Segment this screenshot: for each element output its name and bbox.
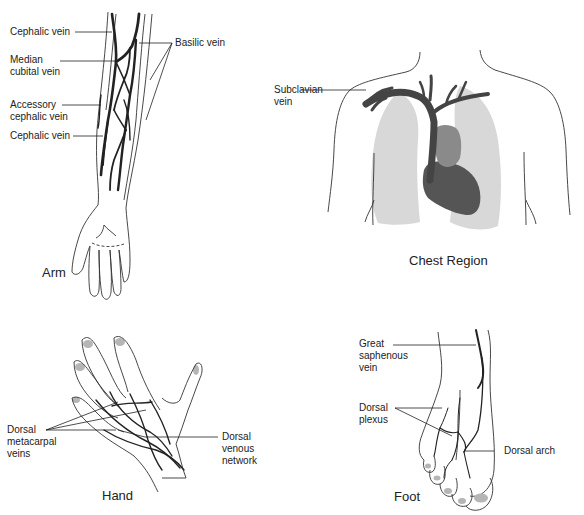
label-median-cubital-vein: Median cubital vein [10, 54, 60, 78]
label-dorsal-arch: Dorsal arch [504, 445, 555, 457]
arm-illustration [60, 12, 172, 299]
hand-illustration [46, 337, 218, 492]
label-basilic-vein: Basilic vein [175, 37, 225, 49]
foot-illustration [393, 330, 494, 510]
label-dorsal-metacarpal-veins: Dorsal metacarpal veins [7, 424, 56, 460]
label-dorsal-plexus: Dorsal plexus [359, 402, 388, 426]
label-accessory-cephalic-vein: Accessory cephalic vein [10, 99, 68, 123]
caption-foot: Foot [394, 489, 420, 504]
illustration-canvas [0, 0, 584, 515]
chest-illustration [301, 50, 570, 229]
veins-diagram: Cephalic vein Median cubital vein Access… [0, 0, 584, 515]
caption-hand: Hand [102, 488, 133, 503]
caption-chest-region: Chest Region [409, 253, 488, 268]
label-great-saphenous-vein: Great saphenous vein [359, 338, 408, 374]
label-subclavian-vein: Subclavian vein [274, 84, 323, 108]
label-cephalic-vein-lower: Cephalic vein [10, 130, 70, 142]
caption-arm: Arm [42, 265, 66, 280]
label-cephalic-vein-upper: Cephalic vein [10, 26, 70, 38]
label-dorsal-venous-network: Dorsal venous network [222, 431, 257, 467]
